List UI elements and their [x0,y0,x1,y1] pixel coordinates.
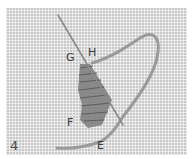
point-label-h: H [88,47,96,58]
point-label-g: G [66,52,75,63]
stitch-drawing [0,0,193,159]
embroidery-illustration: G H F E 4 [0,0,193,159]
point-label-e: E [97,140,104,151]
point-label-f: F [67,117,73,128]
step-number: 4 [10,139,18,152]
